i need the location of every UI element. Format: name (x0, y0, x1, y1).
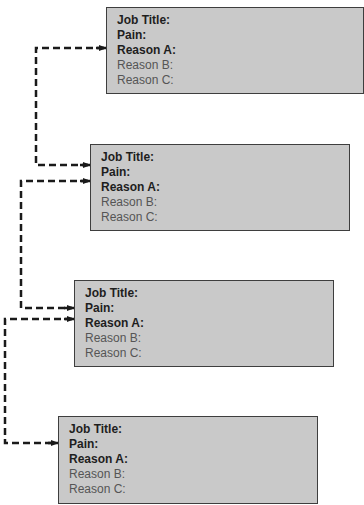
field-reason-b: Reason B: (85, 331, 333, 346)
persona-card-2: Job Title: Pain: Reason A: Reason B: Rea… (90, 144, 350, 231)
field-reason-c: Reason C: (69, 482, 317, 497)
field-reason-b: Reason B: (101, 195, 349, 210)
field-reason-a: Reason A: (85, 316, 333, 331)
persona-card-3: Job Title: Pain: Reason A: Reason B: Rea… (74, 280, 334, 367)
field-job-title: Job Title: (69, 422, 317, 437)
persona-card-1: Job Title: Pain: Reason A: Reason B: Rea… (106, 7, 364, 94)
field-reason-b: Reason B: (117, 58, 363, 73)
field-reason-a: Reason A: (69, 452, 317, 467)
field-reason-a: Reason A: (117, 43, 363, 58)
field-job-title: Job Title: (117, 13, 363, 28)
field-pain: Pain: (69, 437, 317, 452)
field-reason-c: Reason C: (85, 346, 333, 361)
field-reason-a: Reason A: (101, 180, 349, 195)
field-pain: Pain: (117, 28, 363, 43)
field-pain: Pain: (101, 165, 349, 180)
field-job-title: Job Title: (101, 150, 349, 165)
field-reason-c: Reason C: (117, 73, 363, 88)
field-reason-c: Reason C: (101, 210, 349, 225)
field-reason-b: Reason B: (69, 467, 317, 482)
persona-card-4: Job Title: Pain: Reason A: Reason B: Rea… (58, 416, 318, 504)
field-job-title: Job Title: (85, 286, 333, 301)
field-pain: Pain: (85, 301, 333, 316)
